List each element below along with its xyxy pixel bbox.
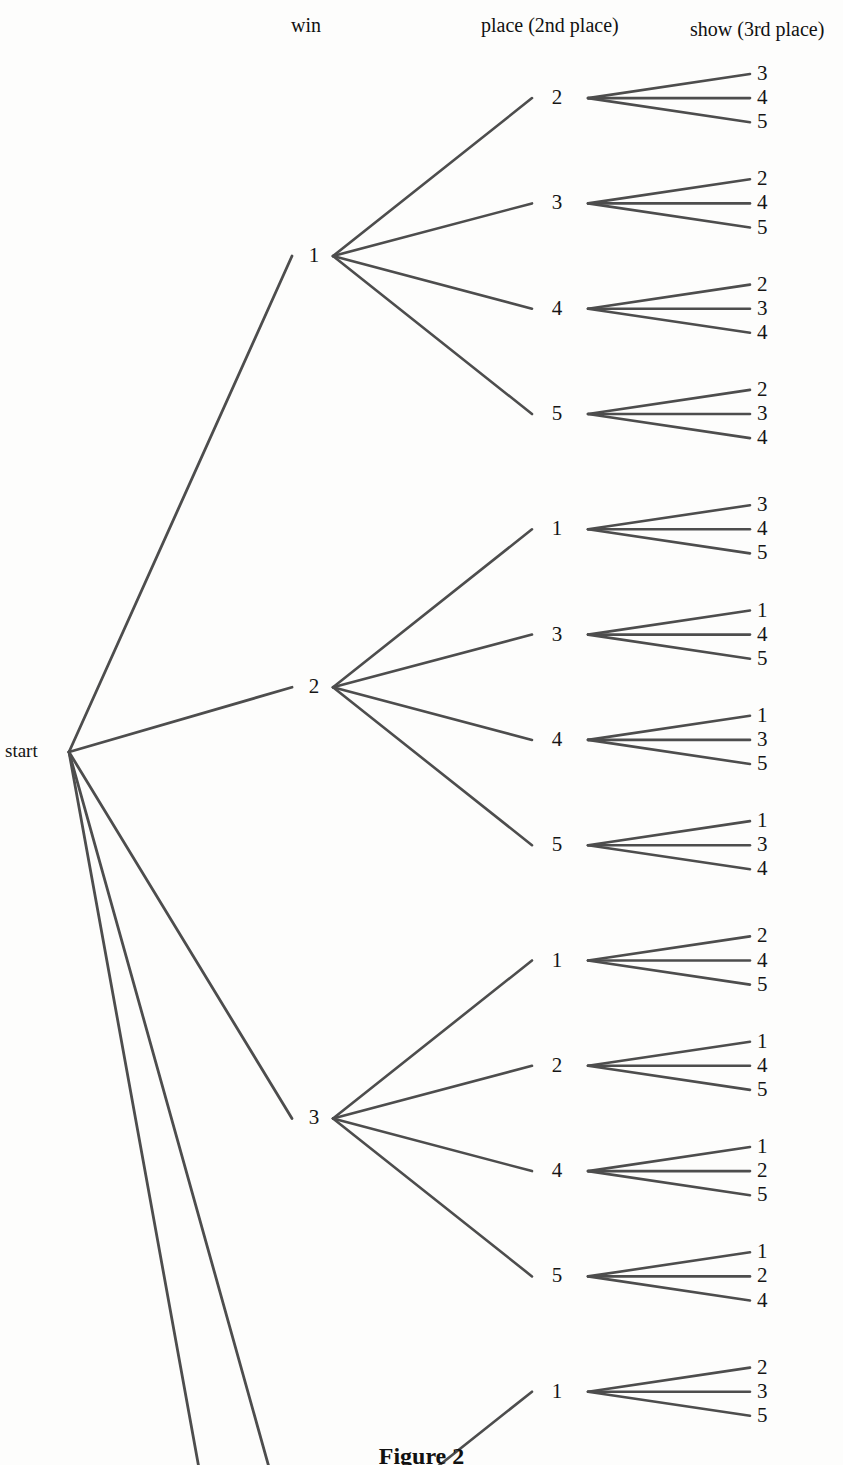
show-node-3-4-2: 2	[757, 1160, 779, 1181]
win-node-1: 1	[303, 245, 325, 266]
place-node-1-5: 5	[546, 403, 568, 424]
place-node-3-1: 1	[546, 950, 568, 971]
show-node-4-1-2: 2	[757, 1357, 779, 1378]
place-node-2-5: 5	[546, 834, 568, 855]
show-node-1-2-5: 5	[757, 111, 779, 132]
figure-caption: Figure 2	[0, 1443, 843, 1465]
show-node-1-4-4: 4	[757, 322, 779, 343]
show-node-1-4-2: 2	[757, 274, 779, 295]
show-node-3-2-4: 4	[757, 1055, 779, 1076]
show-node-1-3-4: 4	[757, 192, 779, 213]
show-node-2-4-5: 5	[757, 753, 779, 774]
place-node-1-2: 2	[546, 87, 568, 108]
show-node-1-3-2: 2	[757, 168, 779, 189]
win-node-3: 3	[303, 1107, 325, 1128]
place-node-3-5: 5	[546, 1265, 568, 1286]
show-node-1-5-4: 4	[757, 427, 779, 448]
show-node-2-1-3: 3	[757, 494, 779, 515]
show-node-1-5-3: 3	[757, 403, 779, 424]
place-node-2-4: 4	[546, 729, 568, 750]
show-node-3-1-4: 4	[757, 950, 779, 971]
place-node-4-1: 1	[546, 1381, 568, 1402]
show-node-3-5-4: 4	[757, 1290, 779, 1311]
show-node-2-3-1: 1	[757, 600, 779, 621]
show-node-2-1-5: 5	[757, 542, 779, 563]
show-node-1-3-5: 5	[757, 217, 779, 238]
figure-canvas: win place (2nd place) show (3rd place) s…	[0, 0, 843, 1465]
show-node-2-5-3: 3	[757, 834, 779, 855]
show-node-2-3-5: 5	[757, 648, 779, 669]
show-node-1-2-4: 4	[757, 87, 779, 108]
place-node-1-4: 4	[546, 298, 568, 319]
place-node-3-4: 4	[546, 1160, 568, 1181]
place-node-2-3: 3	[546, 624, 568, 645]
win-node-2: 2	[303, 676, 325, 697]
show-node-1-4-3: 3	[757, 298, 779, 319]
start-node-label: start	[5, 740, 38, 762]
column-header-win: win	[291, 14, 321, 37]
show-node-3-1-2: 2	[757, 925, 779, 946]
column-header-show: show (3rd place)	[690, 18, 824, 41]
show-node-4-1-3: 3	[757, 1381, 779, 1402]
show-node-2-5-4: 4	[757, 858, 779, 879]
column-header-place: place (2nd place)	[481, 14, 619, 37]
show-node-3-4-1: 1	[757, 1136, 779, 1157]
show-node-2-3-4: 4	[757, 624, 779, 645]
show-node-1-5-2: 2	[757, 379, 779, 400]
show-node-3-5-2: 2	[757, 1265, 779, 1286]
show-node-1-2-3: 3	[757, 63, 779, 84]
place-node-1-3: 3	[546, 192, 568, 213]
place-node-3-2: 2	[546, 1055, 568, 1076]
show-node-3-1-5: 5	[757, 974, 779, 995]
show-node-3-2-5: 5	[757, 1079, 779, 1100]
show-node-2-4-1: 1	[757, 705, 779, 726]
show-node-2-5-1: 1	[757, 810, 779, 831]
place-node-2-1: 1	[546, 518, 568, 539]
show-node-2-4-3: 3	[757, 729, 779, 750]
show-node-3-2-1: 1	[757, 1031, 779, 1052]
show-node-2-1-4: 4	[757, 518, 779, 539]
show-node-3-4-5: 5	[757, 1184, 779, 1205]
show-node-3-5-1: 1	[757, 1241, 779, 1262]
tree-connector-lines	[0, 0, 843, 1465]
show-node-4-1-5: 5	[757, 1405, 779, 1426]
